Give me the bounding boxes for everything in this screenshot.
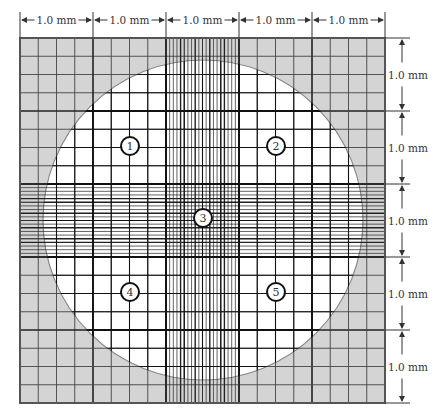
right-dimension-label: 1.0 mm [388, 69, 428, 81]
counting-square-2: 2 [267, 137, 285, 155]
top-dimension-label: 1.0 mm [37, 14, 77, 26]
counting-square-1: 1 [121, 137, 139, 155]
counting-square-4: 4 [121, 283, 139, 301]
counting-square-label: 2 [273, 140, 280, 153]
right-dimension-label: 1.0 mm [388, 361, 428, 373]
counting-square-label: 3 [200, 212, 207, 225]
top-dimension-label: 1.0 mm [183, 14, 223, 26]
right-dimension-label: 1.0 mm [388, 215, 428, 227]
counting-square-5: 5 [267, 283, 285, 301]
hemocytometer-diagram: 1.0 mm1.0 mm1.0 mm1.0 mm1.0 mm1.0 mm1.0 … [0, 0, 445, 419]
counting-square-3: 3 [194, 209, 212, 227]
top-dimension-label: 1.0 mm [110, 14, 150, 26]
right-dimension-label: 1.0 mm [388, 288, 428, 300]
counting-square-label: 1 [127, 140, 134, 153]
counting-square-label: 4 [127, 286, 134, 299]
top-dimension-label: 1.0 mm [256, 14, 296, 26]
top-dimension-label: 1.0 mm [329, 14, 369, 26]
counting-square-label: 5 [273, 286, 280, 299]
right-dimension-label: 1.0 mm [388, 142, 428, 154]
